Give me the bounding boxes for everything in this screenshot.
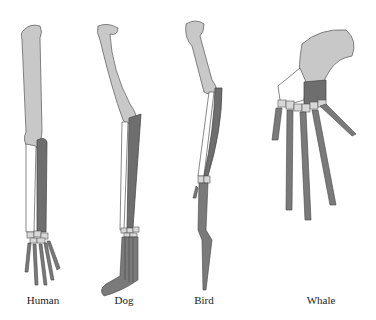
limb-illustrations bbox=[0, 0, 376, 320]
whale-limb bbox=[272, 30, 356, 220]
label-whale: Whale bbox=[291, 294, 351, 306]
label-dog: Dog bbox=[94, 294, 154, 306]
forelimb-comparison-figure: Human Dog Bird Whale bbox=[0, 0, 376, 320]
label-bird: Bird bbox=[174, 294, 234, 306]
label-human: Human bbox=[13, 294, 73, 306]
dog-limb bbox=[97, 24, 141, 296]
human-limb bbox=[21, 25, 60, 285]
bird-limb bbox=[186, 21, 222, 290]
